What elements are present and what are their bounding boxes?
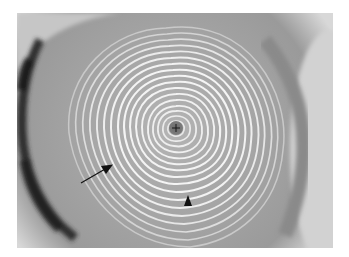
photo-canvas [17,13,333,248]
corneal-topography-photo [17,13,333,248]
